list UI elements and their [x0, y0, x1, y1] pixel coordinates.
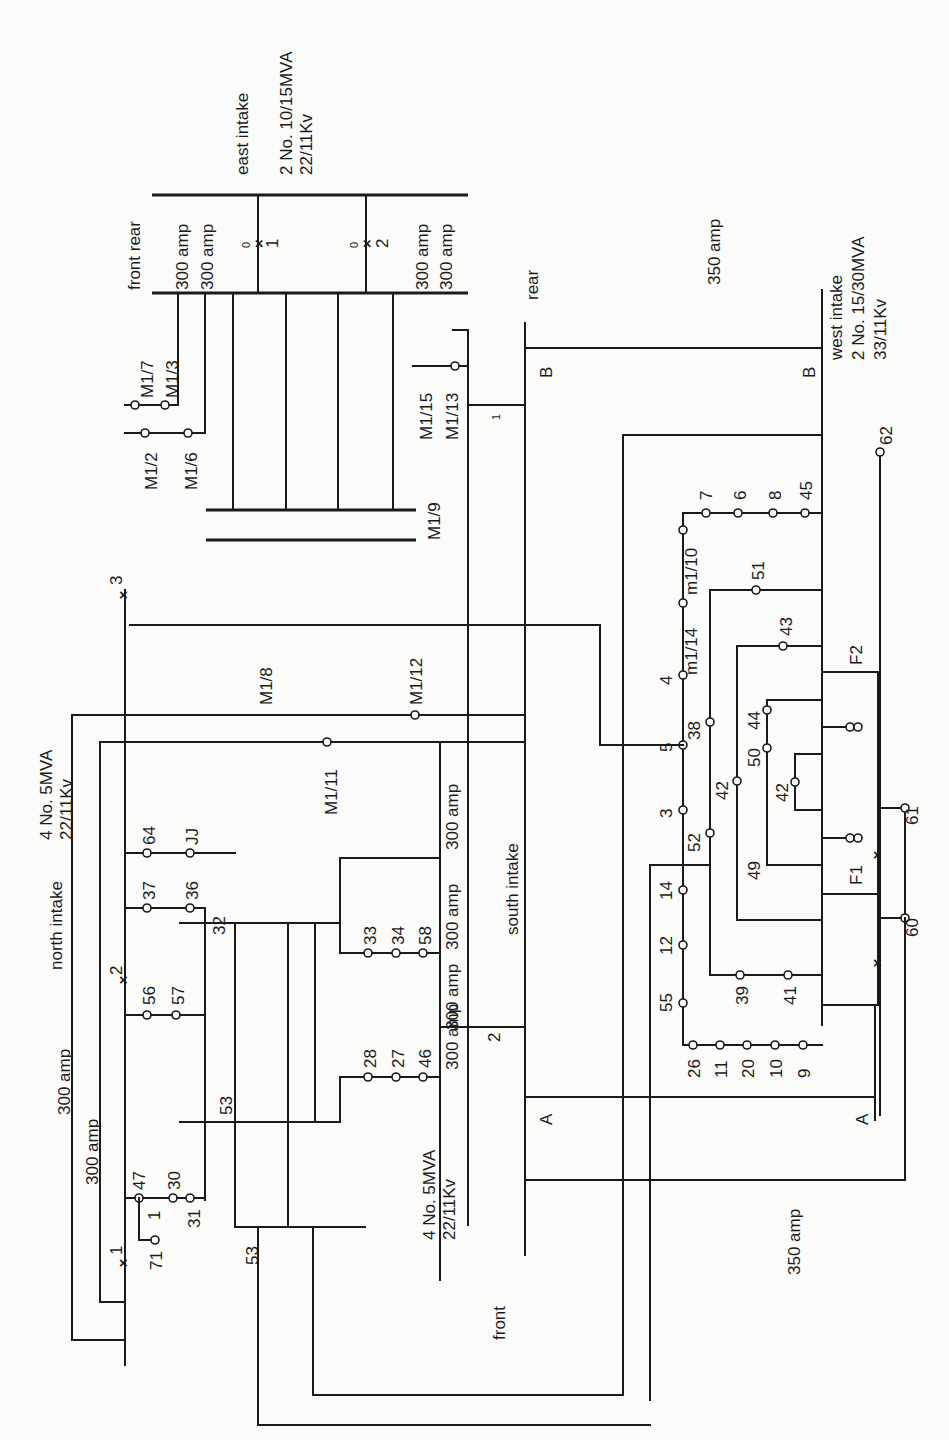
east-amp-label: 300 amp [413, 224, 432, 290]
feeder-label: M1/6 [182, 452, 201, 490]
breaker-label: 2 [485, 1033, 504, 1042]
feeder-label: M1/2 [142, 452, 161, 490]
node-label: 44 [745, 711, 764, 730]
node-label: 53 [243, 1246, 262, 1265]
f2-label: F2 [847, 645, 866, 665]
node-label: 61 [903, 806, 922, 825]
west-amp-label: 350 amp [705, 219, 724, 285]
breaker-label: 1 [263, 239, 282, 248]
amp-label: 300 amp [443, 784, 462, 850]
feeder-label: M1/13 [443, 393, 462, 440]
node-label: 30 [165, 1171, 184, 1190]
node-label: 45 [797, 481, 816, 500]
south-intake-voltage: 22/11Kv [440, 1178, 459, 1240]
node-label: 28 [361, 1049, 380, 1068]
amp-label: 350 amp [785, 1209, 804, 1275]
feeder-label: M1/9 [425, 502, 444, 540]
node-label: 5 [657, 743, 676, 752]
node-label: 71 [147, 1251, 166, 1270]
breaker-label: 1 [490, 414, 502, 420]
amp-label: 300 amp [55, 1049, 74, 1115]
bus-a-label: A [853, 1113, 872, 1125]
node-label: 42 [713, 781, 732, 800]
node-label: 34 [389, 926, 408, 945]
node-label: 52 [685, 833, 704, 852]
feeder-label: M1/15 [417, 393, 436, 440]
amp-label: 300 amp [83, 1119, 102, 1185]
node-label: 12 [657, 936, 676, 955]
node-label: 32 [210, 916, 229, 935]
node-label: 10 [767, 1059, 786, 1078]
node-label: 56 [140, 986, 159, 1005]
node-label: 41 [781, 986, 800, 1005]
node-label: 39 [733, 986, 752, 1005]
node-label: 4 [657, 676, 676, 685]
node-label: 47 [130, 1171, 149, 1190]
bus-a-label: A [537, 1113, 556, 1125]
north-intake-title: north intake [47, 881, 66, 970]
node-label: 14 [657, 881, 676, 900]
node-label: 64 [140, 826, 159, 845]
breaker-state: 0 [240, 242, 252, 248]
node-label: 7 [697, 491, 716, 500]
north-intake-voltage: 22/11Kv [57, 778, 76, 840]
single-line-diagram: front rear 300 amp 300 amp 300 amp 300 a… [0, 0, 949, 1440]
node-label: 6 [731, 491, 750, 500]
east-intake-title: east intake [233, 93, 252, 175]
node-label: 57 [169, 986, 188, 1005]
breaker-x-icon: × [119, 1254, 128, 1271]
node-label: 55 [657, 993, 676, 1012]
node-label: 53 [217, 1096, 236, 1115]
north-intake-rating: 4 No. 5MVA [37, 749, 56, 840]
west-intake-title: west intake [827, 275, 846, 361]
breaker-x-icon: × [119, 586, 128, 603]
node-label: 31 [185, 1209, 204, 1228]
node-label: 50 [745, 748, 764, 767]
east-amp-label: 300 amp [198, 224, 217, 290]
east-intake-voltage: 22/11Kv [297, 113, 316, 175]
node-label: 1 [145, 1211, 164, 1220]
node-label: 11 [712, 1060, 731, 1078]
node-label: 58 [416, 926, 435, 945]
south-intake-rating: 4 No. 5MVA [420, 1149, 439, 1240]
breaker-x-icon: × [873, 846, 882, 863]
breaker-x-icon: × [873, 954, 882, 971]
node-label: 37 [140, 881, 159, 900]
feeder-label: M1/7 [138, 360, 157, 398]
breaker-label: 2 [373, 239, 392, 248]
node-label: 38 [685, 721, 704, 740]
node-label: 51 [749, 561, 768, 580]
node-label: 3 [657, 809, 676, 818]
east-amp-label: 300 amp [437, 224, 456, 290]
breaker-label: 2 [107, 966, 126, 975]
node-label: 42 [773, 783, 792, 802]
east-intake-rating: 2 No. 10/15MVA [277, 51, 296, 175]
node-label: 36 [183, 881, 202, 900]
east-front-rear-label: front rear [125, 221, 144, 290]
node-label: 46 [416, 1049, 435, 1068]
node-label: 27 [389, 1049, 408, 1068]
rear-label: rear [523, 269, 542, 300]
north-south-section: × 3 M1/8 M1/12 M1/11 300 amp 300 amp nor… [37, 576, 650, 1425]
breaker-label: 1 [107, 1246, 126, 1255]
amp-label: 300 amp [443, 1004, 462, 1070]
breaker-label: 3 [107, 576, 126, 585]
west-intake-voltage: 33/11Kv [871, 298, 890, 360]
east-intake-section: front rear 300 amp 300 amp 300 amp 300 a… [125, 51, 525, 1225]
node-label: 9 [795, 1069, 814, 1078]
node-label: JJ [183, 828, 202, 845]
amp-label: 300 amp [443, 884, 462, 950]
bus-b-label: B [800, 367, 819, 378]
node-label: 26 [685, 1059, 704, 1078]
node-label: 33 [361, 926, 380, 945]
south-intake-title: south intake [503, 843, 522, 935]
node-label: 43 [777, 617, 796, 636]
west-intake-section: rear 350 amp B B west intake 2 No. 15/30… [130, 219, 922, 1400]
feeder-label: M1/8 [257, 667, 276, 705]
feeder-label: m1/14 [682, 628, 701, 675]
bus-b-label: B [537, 367, 556, 378]
node-label: 62 [877, 426, 896, 445]
feeder-label: M1/12 [407, 658, 426, 705]
node-label: 49 [745, 861, 764, 880]
feeder-label: M1/11 [322, 769, 341, 815]
